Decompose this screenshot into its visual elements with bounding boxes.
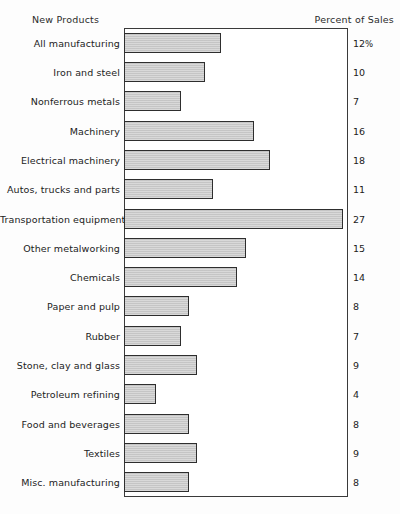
bar — [124, 472, 189, 492]
bar-category-label: Paper and pulp — [0, 301, 120, 312]
bar-value-label: 12% — [353, 37, 373, 48]
bar — [124, 238, 246, 258]
bar-row: Chemicals14 — [0, 263, 400, 292]
bar — [124, 209, 343, 229]
bar-row: Rubber7 — [0, 321, 400, 350]
bar-row: Misc. manufacturing8 — [0, 468, 400, 497]
bar-row: Food and beverages8 — [0, 409, 400, 438]
bar-category-label: Iron and steel — [0, 66, 120, 77]
bar — [124, 326, 181, 346]
bar — [124, 414, 189, 434]
bar-category-label: Electrical machinery — [0, 154, 120, 165]
bar-category-label: Machinery — [0, 125, 120, 136]
bar-value-label: 9 — [353, 448, 359, 459]
bar-value-label: 10 — [353, 66, 365, 77]
bar — [124, 62, 205, 82]
bar-row: Iron and steel10 — [0, 57, 400, 86]
bar — [124, 443, 197, 463]
bar-row: Paper and pulp8 — [0, 292, 400, 321]
bar-category-label: Nonferrous metals — [0, 96, 120, 107]
bar-row: Electrical machinery18 — [0, 145, 400, 174]
bar — [124, 355, 197, 375]
bar-category-label: Food and beverages — [0, 418, 120, 429]
bar-value-label: 8 — [353, 418, 359, 429]
bar-row: Transportation equipment27 — [0, 204, 400, 233]
bar-category-label: Autos, trucks and parts — [0, 184, 120, 195]
bar-row: Machinery16 — [0, 116, 400, 145]
bar-value-label: 18 — [353, 154, 365, 165]
bar-chart: New Products Percent of Sales All manufa… — [0, 0, 400, 514]
bar — [124, 267, 237, 287]
bar — [124, 33, 221, 53]
bar-value-label: 7 — [353, 330, 359, 341]
bar-value-label: 14 — [353, 272, 365, 283]
chart-header-right: Percent of Sales — [315, 14, 394, 25]
bar-value-label: 8 — [353, 477, 359, 488]
bar-value-label: 7 — [353, 96, 359, 107]
bar-category-label: All manufacturing — [0, 37, 120, 48]
bar-category-label: Transportation equipment — [0, 213, 120, 224]
bar-row: Nonferrous metals7 — [0, 87, 400, 116]
bar-value-label: 27 — [353, 213, 365, 224]
bar-category-label: Petroleum refining — [0, 389, 120, 400]
bar — [124, 121, 254, 141]
bar-row: Stone, clay and glass9 — [0, 350, 400, 379]
bar — [124, 150, 270, 170]
bar-row: Petroleum refining4 — [0, 380, 400, 409]
bar-row: Autos, trucks and parts11 — [0, 175, 400, 204]
bar — [124, 91, 181, 111]
bar-value-label: 9 — [353, 360, 359, 371]
bar-value-label: 16 — [353, 125, 365, 136]
bar-row: Textiles9 — [0, 438, 400, 467]
bar-value-label: 11 — [353, 184, 365, 195]
bar-category-label: Chemicals — [0, 272, 120, 283]
bar-value-label: 15 — [353, 242, 365, 253]
bar-row: All manufacturing12% — [0, 28, 400, 57]
bar-category-label: Textiles — [0, 448, 120, 459]
chart-header-left: New Products — [32, 14, 99, 25]
bar — [124, 179, 213, 199]
bar-category-label: Misc. manufacturing — [0, 477, 120, 488]
bar-value-label: 4 — [353, 389, 359, 400]
bar-category-label: Other metalworking — [0, 242, 120, 253]
bar-row: Other metalworking15 — [0, 233, 400, 262]
bar-rows: All manufacturing12%Iron and steel10Nonf… — [0, 28, 400, 497]
bar-category-label: Stone, clay and glass — [0, 360, 120, 371]
bar-value-label: 8 — [353, 301, 359, 312]
bar — [124, 384, 156, 404]
bar-category-label: Rubber — [0, 330, 120, 341]
bar — [124, 296, 189, 316]
